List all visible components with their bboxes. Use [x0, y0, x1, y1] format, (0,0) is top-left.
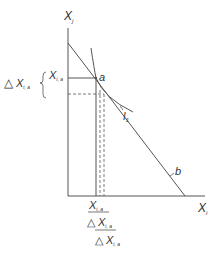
indifference-curve — [91, 48, 133, 112]
x-delta1-symbol: △ — [87, 216, 96, 228]
y-level-label: Xi, a — [48, 69, 63, 82]
point-a-label: a — [99, 71, 105, 83]
x-level-label: Xi, a — [88, 199, 103, 212]
y-axis-label: Xj — [63, 9, 74, 24]
x-delta2-label: Xi, a — [105, 234, 120, 247]
indifference-label: I1 — [123, 111, 129, 123]
y-delta-symbol: △ — [4, 76, 14, 90]
x-axis-label: Xi — [197, 201, 208, 216]
y-delta-brace — [40, 72, 46, 98]
leader-b — [170, 173, 174, 176]
budget-label: b — [175, 165, 181, 177]
y-delta-label: Xi, a — [15, 77, 30, 90]
x-delta2-symbol: △ — [95, 234, 104, 246]
economics-diagram: Xj Xi a I1 b Xi, a △ Xi, a Xi, a △ Xi, a… — [0, 0, 220, 255]
point-a — [95, 77, 97, 79]
x-delta1-label: Xi, a — [97, 216, 112, 229]
